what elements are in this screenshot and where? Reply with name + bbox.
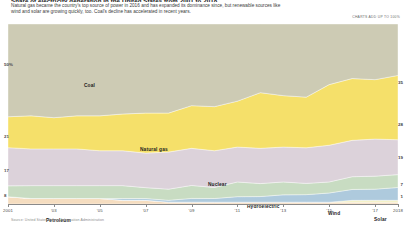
chart-svg (0, 24, 406, 204)
x-tick-label-0: 2001 (3, 208, 13, 213)
chart-page: Share of electricity generation in the U… (0, 0, 406, 227)
x-tick-mark-4 (192, 204, 193, 207)
x-tick-label-9: 2018 (393, 208, 403, 213)
stacked-area-chart (0, 24, 406, 204)
x-tick-mark-1 (54, 204, 55, 207)
x-tick-label-1: '03 (51, 208, 57, 213)
y-tick-2: 17 (4, 168, 9, 173)
page-title: Share of electricity generation in the U… (11, 0, 341, 2)
x-tick-mark-5 (237, 204, 238, 207)
x-tick-label-3: '07 (143, 208, 149, 213)
x-tick-mark-3 (146, 204, 147, 207)
band-label-solar: Solar (374, 217, 387, 222)
x-tick-label-5: '11 (235, 208, 241, 213)
x-tick-mark-7 (329, 204, 330, 207)
y-tick-3: 8 (4, 193, 7, 198)
chart-subtitle: Natural gas became the country's top sou… (11, 3, 291, 16)
end-label-nuclear: 19 (398, 155, 403, 160)
y-tick-0: 50% (4, 62, 13, 67)
end-label-natural-gas: 35 (398, 80, 403, 85)
x-tick-label-4: '09 (189, 208, 195, 213)
band-label-coal: Coal (84, 83, 95, 88)
band-label-nuclear: Nuclear (208, 182, 227, 187)
x-tick-label-7: '15 (326, 208, 332, 213)
x-tick-label-8: '17 (372, 208, 378, 213)
x-tick-label-6: '13 (280, 208, 286, 213)
band-label-natural-gas: Natural gas (140, 147, 168, 152)
x-tick-mark-6 (283, 204, 284, 207)
source-note: Source: United States Energy Information… (11, 218, 104, 222)
end-label-solar: 1 (400, 194, 403, 199)
x-tick-mark-0 (8, 204, 9, 207)
x-tick-mark-9 (398, 204, 399, 207)
x-axis-line (8, 204, 398, 205)
x-tick-mark-2 (100, 204, 101, 207)
end-label-wind: 7 (400, 182, 403, 187)
end-label-coal: 28 (398, 122, 403, 127)
charts-add-up-note: Charts add up to 100% (352, 15, 400, 19)
x-tick-mark-8 (375, 204, 376, 207)
y-tick-1: 21 (4, 134, 9, 139)
x-tick-label-2: '05 (97, 208, 103, 213)
